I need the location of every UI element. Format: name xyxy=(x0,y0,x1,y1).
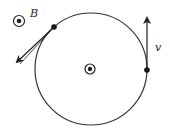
field-label: B xyxy=(29,7,38,20)
velocity-arrow-left xyxy=(17,27,54,62)
velocity-label: v xyxy=(155,41,162,54)
field-symbol-icon xyxy=(14,16,25,27)
center-symbol-icon xyxy=(85,64,95,74)
magnetic-field-diagram: B v xyxy=(0,0,170,130)
velocity-arrow-left-2 xyxy=(20,27,54,64)
